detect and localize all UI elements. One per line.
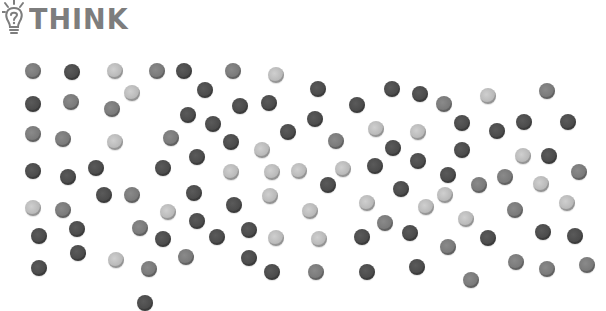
- dot-dark: [155, 160, 171, 176]
- dot-dark: [232, 98, 248, 114]
- dot-medium: [328, 133, 344, 149]
- dot-dark: [180, 107, 196, 123]
- dot-dark: [384, 81, 400, 97]
- dot-dark: [60, 169, 76, 185]
- dot-medium: [25, 63, 41, 79]
- dot-dark: [205, 116, 221, 132]
- dot-dark: [307, 111, 323, 127]
- dot-dark: [155, 231, 171, 247]
- dot-dark: [410, 153, 426, 169]
- dot-dark: [25, 96, 41, 112]
- dot-dark: [176, 63, 192, 79]
- dot-dark: [535, 224, 551, 240]
- dot-dark: [489, 123, 505, 139]
- dot-light: [458, 211, 474, 227]
- dot-light: [368, 121, 384, 137]
- dot-medium: [178, 249, 194, 265]
- dot-dark: [359, 264, 375, 280]
- dot-medium: [436, 96, 452, 112]
- dot-light: [559, 195, 575, 211]
- dot-dark: [209, 229, 225, 245]
- dot-light: [160, 204, 176, 220]
- dot-dark: [264, 264, 280, 280]
- dot-dark: [64, 64, 80, 80]
- dot-medium: [507, 202, 523, 218]
- dot-dark: [409, 259, 425, 275]
- dot-dark: [88, 160, 104, 176]
- dot-light: [291, 163, 307, 179]
- dot-light: [262, 188, 278, 204]
- dot-light: [264, 164, 280, 180]
- dot-dark: [516, 114, 532, 130]
- dot-dark: [189, 213, 205, 229]
- dot-medium: [377, 215, 393, 231]
- dot-dark: [31, 260, 47, 276]
- dot-light: [335, 161, 351, 177]
- dot-dark: [320, 177, 336, 193]
- dot-medium: [163, 130, 179, 146]
- dot-dark: [261, 95, 277, 111]
- dot-medium: [132, 220, 148, 236]
- dot-dark: [560, 114, 576, 130]
- dot-light: [533, 176, 549, 192]
- dot-light: [223, 164, 239, 180]
- dot-light: [124, 85, 140, 101]
- dot-light: [437, 187, 453, 203]
- dot-dark: [70, 245, 86, 261]
- dot-light: [480, 88, 496, 104]
- dot-dark: [541, 148, 557, 164]
- dot-medium: [149, 63, 165, 79]
- dot-light: [107, 63, 123, 79]
- dot-medium: [471, 177, 487, 193]
- dot-light: [108, 252, 124, 268]
- dot-medium: [539, 261, 555, 277]
- dot-dark: [241, 222, 257, 238]
- dot-dark: [354, 229, 370, 245]
- dot-dark: [96, 187, 112, 203]
- dot-medium: [571, 164, 587, 180]
- dot-light: [302, 203, 318, 219]
- dot-light: [107, 134, 123, 150]
- dot-dark: [223, 134, 239, 150]
- dot-dark: [412, 86, 428, 102]
- dot-light: [254, 142, 270, 158]
- dot-light: [418, 199, 434, 215]
- dot-medium: [497, 169, 513, 185]
- dot-dark: [440, 167, 456, 183]
- dot-medium: [440, 239, 456, 255]
- dot-medium: [124, 187, 140, 203]
- dot-medium: [508, 254, 524, 270]
- dot-dark: [189, 149, 205, 165]
- dot-dark: [454, 115, 470, 131]
- dot-medium: [55, 131, 71, 147]
- dot-medium: [579, 257, 595, 273]
- dot-light: [311, 231, 327, 247]
- dot-medium: [463, 272, 479, 288]
- dot-dark: [385, 140, 401, 156]
- dot-dark: [69, 221, 85, 237]
- dot-dark: [310, 81, 326, 97]
- dot-dark: [567, 228, 583, 244]
- dot-dark: [393, 181, 409, 197]
- dot-medium: [308, 264, 324, 280]
- dot-medium: [141, 261, 157, 277]
- dot-dark: [25, 163, 41, 179]
- dot-dark: [454, 142, 470, 158]
- dot-medium: [25, 126, 41, 142]
- dot-medium: [539, 83, 555, 99]
- dot-light: [268, 67, 284, 83]
- dot-dark: [280, 124, 296, 140]
- dot-dark: [186, 185, 202, 201]
- dot-light: [359, 195, 375, 211]
- dot-dark: [31, 228, 47, 244]
- dot-medium: [225, 63, 241, 79]
- dot-light: [25, 200, 41, 216]
- dot-dark: [226, 197, 242, 213]
- dot-dark: [197, 82, 213, 98]
- dot-light: [268, 230, 284, 246]
- dot-dark: [367, 158, 383, 174]
- dot-dark: [480, 230, 496, 246]
- dot-dark: [241, 250, 257, 266]
- dot-dark: [349, 97, 365, 113]
